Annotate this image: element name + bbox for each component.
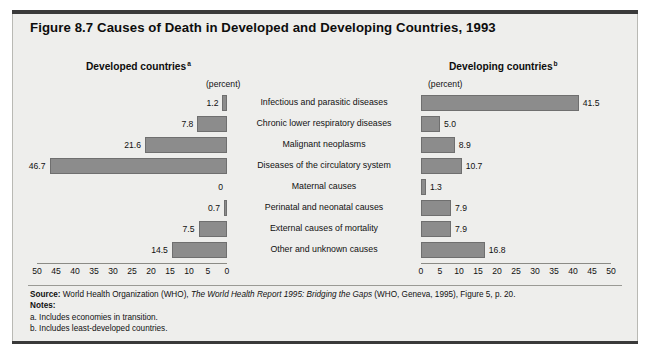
plot-area: Developed countriesa Developing countrie… bbox=[12, 44, 638, 280]
x-tick-right: 25 bbox=[511, 266, 521, 276]
bar-developing[interactable] bbox=[421, 158, 462, 174]
source-report-title: The World Health Report 1995: Bridging t… bbox=[191, 290, 372, 299]
bar-half-right: 8.9 bbox=[421, 137, 611, 153]
panel-heading-developing-footnote-marker: b bbox=[554, 60, 558, 67]
bar-developed[interactable] bbox=[172, 242, 227, 258]
bar-value-developing: 5.0 bbox=[444, 118, 456, 130]
category-label: Chronic lower respiratory diseases bbox=[228, 116, 420, 130]
category-label: Malignant neoplasms bbox=[228, 137, 420, 151]
bottom-rule bbox=[12, 341, 638, 344]
bar-rows: 1.2Infectious and parasitic diseases41.5… bbox=[12, 92, 638, 260]
bar-half-right: 7.9 bbox=[421, 200, 611, 216]
bar-half-right: 16.8 bbox=[421, 242, 611, 258]
bar-value-developing: 41.5 bbox=[583, 97, 600, 109]
bar-half-right: 7.9 bbox=[421, 221, 611, 237]
bar-developing[interactable] bbox=[421, 179, 426, 195]
category-label: Maternal causes bbox=[228, 179, 420, 193]
bar-half-left: 46.7 bbox=[37, 158, 227, 174]
bar-value-developing: 8.9 bbox=[459, 139, 471, 151]
bar-developed[interactable] bbox=[224, 200, 227, 216]
x-tick-left: 50 bbox=[32, 266, 42, 276]
bar-value-developing: 16.8 bbox=[489, 244, 506, 256]
x-axis-right: 05101520253035404550 bbox=[421, 266, 611, 280]
bar-value-developed: 46.7 bbox=[29, 160, 46, 172]
category-label: Other and unknown causes bbox=[228, 242, 420, 256]
bar-half-right: 41.5 bbox=[421, 95, 611, 111]
x-tick-left: 25 bbox=[127, 266, 137, 276]
x-tick-right: 50 bbox=[606, 266, 616, 276]
x-tick-left: 45 bbox=[51, 266, 61, 276]
bar-half-left: 7.8 bbox=[37, 116, 227, 132]
bar-developing[interactable] bbox=[421, 221, 451, 237]
bar-row: 1.2Infectious and parasitic diseases41.5 bbox=[12, 92, 638, 113]
bar-developed[interactable] bbox=[145, 137, 227, 153]
panel-heading-developed: Developed countriesa bbox=[86, 60, 191, 72]
source-text-post: (WHO, Geneva, 1995), Figure 5, p. 20. bbox=[372, 290, 515, 299]
bar-developed[interactable] bbox=[197, 116, 227, 132]
x-tick-left: 30 bbox=[108, 266, 118, 276]
x-tick-right: 30 bbox=[530, 266, 540, 276]
panel-heading-developed-footnote-marker: a bbox=[187, 60, 191, 67]
note-b: b. Includes least-developed countries. bbox=[30, 323, 630, 334]
x-tick-left: 0 bbox=[225, 266, 230, 276]
bar-half-left: 7.5 bbox=[37, 221, 227, 237]
category-label: Infectious and parasitic diseases bbox=[228, 95, 420, 109]
x-tick-right: 10 bbox=[454, 266, 464, 276]
notes-label: Notes: bbox=[30, 300, 630, 311]
category-label: External causes of mortality bbox=[228, 221, 420, 235]
unit-label-right: (percent) bbox=[428, 79, 462, 89]
bar-half-right: 1.3 bbox=[421, 179, 611, 195]
bar-developing[interactable] bbox=[421, 200, 451, 216]
bar-developing[interactable] bbox=[421, 95, 579, 111]
bar-developing[interactable] bbox=[421, 137, 455, 153]
x-tick-right: 5 bbox=[438, 266, 443, 276]
bar-developed[interactable] bbox=[50, 158, 227, 174]
bar-value-developed: 7.5 bbox=[183, 223, 195, 235]
panel-heading-developing-label: Developing countries bbox=[449, 61, 553, 72]
bar-row: 7.5External causes of mortality7.9 bbox=[12, 218, 638, 239]
bar-value-developing: 7.9 bbox=[455, 202, 467, 214]
unit-label-left: (percent) bbox=[206, 79, 240, 89]
panel-heading-developed-label: Developed countries bbox=[86, 61, 186, 72]
bar-value-developed: 1.2 bbox=[207, 97, 219, 109]
x-tick-right: 0 bbox=[419, 266, 424, 276]
bar-half-right: 10.7 bbox=[421, 158, 611, 174]
x-axis-left: 50454035302520151050 bbox=[37, 266, 227, 280]
source-label: Source: bbox=[30, 290, 60, 299]
bar-developing[interactable] bbox=[421, 242, 485, 258]
bar-value-developing: 1.3 bbox=[430, 181, 442, 193]
bar-value-developing: 7.9 bbox=[455, 223, 467, 235]
x-tick-left: 40 bbox=[70, 266, 80, 276]
x-tick-left: 35 bbox=[89, 266, 99, 276]
axis-line-right bbox=[421, 263, 611, 264]
x-tick-right: 45 bbox=[587, 266, 597, 276]
x-tick-left: 5 bbox=[206, 266, 211, 276]
bar-half-left: 0 bbox=[37, 179, 227, 195]
panel-heading-developing: Developing countriesb bbox=[449, 60, 558, 72]
bar-half-left: 1.2 bbox=[37, 95, 227, 111]
figure-footer: Source: World Health Organization (WHO),… bbox=[30, 289, 630, 335]
bar-row: 46.7Diseases of the circulatory system10… bbox=[12, 155, 638, 176]
bar-half-left: 0.7 bbox=[37, 200, 227, 216]
bar-developed[interactable] bbox=[222, 95, 227, 111]
x-tick-left: 10 bbox=[184, 266, 194, 276]
bar-row: 14.5Other and unknown causes16.8 bbox=[12, 239, 638, 260]
bar-developing[interactable] bbox=[421, 116, 440, 132]
source-text-pre: World Health Organization (WHO), bbox=[60, 290, 190, 299]
axis-line-left bbox=[37, 263, 227, 264]
bar-value-developing: 10.7 bbox=[466, 160, 483, 172]
source-line: Source: World Health Organization (WHO),… bbox=[30, 289, 630, 300]
bar-row: 0.7Perinatal and neonatal causes7.9 bbox=[12, 197, 638, 218]
bar-row: 21.6Malignant neoplasms8.9 bbox=[12, 134, 638, 155]
bar-row: 0Maternal causes1.3 bbox=[12, 176, 638, 197]
x-tick-right: 40 bbox=[568, 266, 578, 276]
figure-title: Figure 8.7 Causes of Death in Developed … bbox=[30, 20, 496, 35]
bar-value-developed: 14.5 bbox=[151, 244, 168, 256]
x-tick-right: 15 bbox=[473, 266, 483, 276]
bar-value-developed: 0.7 bbox=[208, 202, 220, 214]
bar-developed[interactable] bbox=[199, 221, 228, 237]
bar-value-developed: 21.6 bbox=[124, 139, 141, 151]
top-rule bbox=[12, 10, 638, 14]
x-tick-right: 20 bbox=[492, 266, 502, 276]
category-label: Perinatal and neonatal causes bbox=[228, 200, 420, 214]
